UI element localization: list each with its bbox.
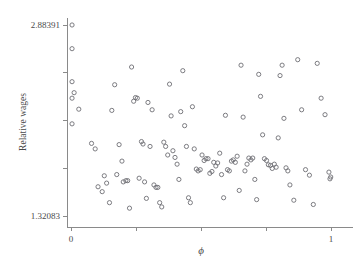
y-axis-min-tick-label: 1.32083 bbox=[31, 211, 61, 221]
data-point bbox=[70, 80, 74, 84]
axes-group bbox=[63, 18, 353, 231]
x-axis-title: ϕ bbox=[198, 244, 204, 256]
data-point bbox=[190, 105, 194, 109]
data-point bbox=[323, 113, 327, 117]
y-axis-ticks bbox=[63, 25, 67, 216]
data-point bbox=[72, 91, 76, 95]
data-point bbox=[70, 47, 74, 51]
data-points-layer bbox=[70, 23, 333, 210]
data-point bbox=[102, 174, 106, 178]
data-point bbox=[282, 116, 286, 120]
x-axis-ticks bbox=[71, 227, 331, 231]
x-axis-min-tick-label: 0 bbox=[69, 234, 74, 244]
y-axis-title: Relative wages bbox=[18, 93, 28, 151]
data-point bbox=[235, 154, 239, 158]
data-point bbox=[183, 124, 187, 128]
data-point bbox=[177, 177, 181, 181]
data-point bbox=[96, 185, 100, 189]
data-point bbox=[120, 159, 124, 163]
data-point bbox=[258, 94, 262, 98]
data-point bbox=[169, 114, 173, 118]
data-point bbox=[70, 122, 74, 126]
data-point bbox=[186, 196, 190, 200]
data-point bbox=[142, 180, 146, 184]
data-point bbox=[179, 110, 183, 114]
data-point bbox=[188, 201, 192, 205]
data-point bbox=[77, 107, 81, 111]
data-point bbox=[311, 202, 315, 206]
data-point bbox=[167, 82, 171, 86]
data-point bbox=[70, 23, 74, 27]
data-point bbox=[280, 63, 284, 67]
data-point bbox=[276, 136, 280, 140]
data-point bbox=[150, 108, 154, 112]
data-point bbox=[70, 96, 74, 100]
data-point bbox=[89, 141, 93, 145]
data-point bbox=[173, 155, 177, 159]
data-point bbox=[327, 170, 331, 174]
data-point bbox=[175, 162, 179, 166]
plot-canvas: 2.88391 1.32083 0 1 ϕ Relative wages bbox=[0, 0, 355, 260]
data-point bbox=[146, 100, 150, 104]
data-point bbox=[292, 198, 296, 202]
data-point bbox=[184, 144, 188, 148]
data-point bbox=[160, 205, 164, 209]
data-point bbox=[296, 58, 300, 62]
data-point bbox=[261, 133, 265, 137]
data-point bbox=[171, 149, 175, 153]
data-point bbox=[245, 162, 249, 166]
data-point bbox=[164, 144, 168, 148]
data-point bbox=[127, 206, 131, 210]
data-point bbox=[117, 143, 121, 147]
data-point bbox=[222, 196, 226, 200]
data-point bbox=[219, 172, 223, 176]
data-point bbox=[239, 63, 243, 67]
data-point bbox=[158, 201, 162, 205]
data-point bbox=[137, 176, 141, 180]
data-point bbox=[253, 177, 257, 181]
data-point bbox=[200, 153, 204, 157]
data-point bbox=[181, 69, 185, 73]
data-point bbox=[288, 183, 292, 187]
x-axis-max-tick-label: 1 bbox=[329, 234, 334, 244]
data-point bbox=[144, 196, 148, 200]
data-point bbox=[243, 169, 247, 173]
y-axis-max-tick-label: 2.88391 bbox=[31, 20, 60, 30]
data-point bbox=[307, 173, 311, 177]
data-point bbox=[218, 151, 222, 155]
data-point bbox=[148, 144, 152, 148]
data-point bbox=[257, 72, 261, 76]
data-point bbox=[237, 188, 241, 192]
data-point bbox=[100, 190, 104, 194]
axis-labels-layer: 2.88391 1.32083 0 1 ϕ Relative wages bbox=[18, 20, 333, 256]
data-point bbox=[278, 73, 282, 77]
data-point bbox=[319, 96, 323, 100]
data-point bbox=[110, 108, 114, 112]
data-point bbox=[162, 140, 166, 144]
data-point bbox=[300, 108, 304, 112]
data-point bbox=[107, 201, 111, 205]
data-point bbox=[129, 65, 133, 69]
scatter-plot-figure: 2.88391 1.32083 0 1 ϕ Relative wages bbox=[0, 0, 355, 260]
data-point bbox=[93, 147, 97, 151]
data-point bbox=[223, 113, 227, 117]
data-point bbox=[105, 181, 109, 185]
data-point bbox=[255, 198, 259, 202]
data-point bbox=[113, 83, 117, 87]
data-point bbox=[166, 153, 170, 157]
data-point bbox=[115, 172, 119, 176]
data-point bbox=[303, 168, 307, 172]
data-point bbox=[315, 61, 319, 65]
cropped-title-fragment bbox=[62, 0, 292, 4]
data-point bbox=[241, 115, 245, 119]
data-point bbox=[192, 147, 196, 151]
